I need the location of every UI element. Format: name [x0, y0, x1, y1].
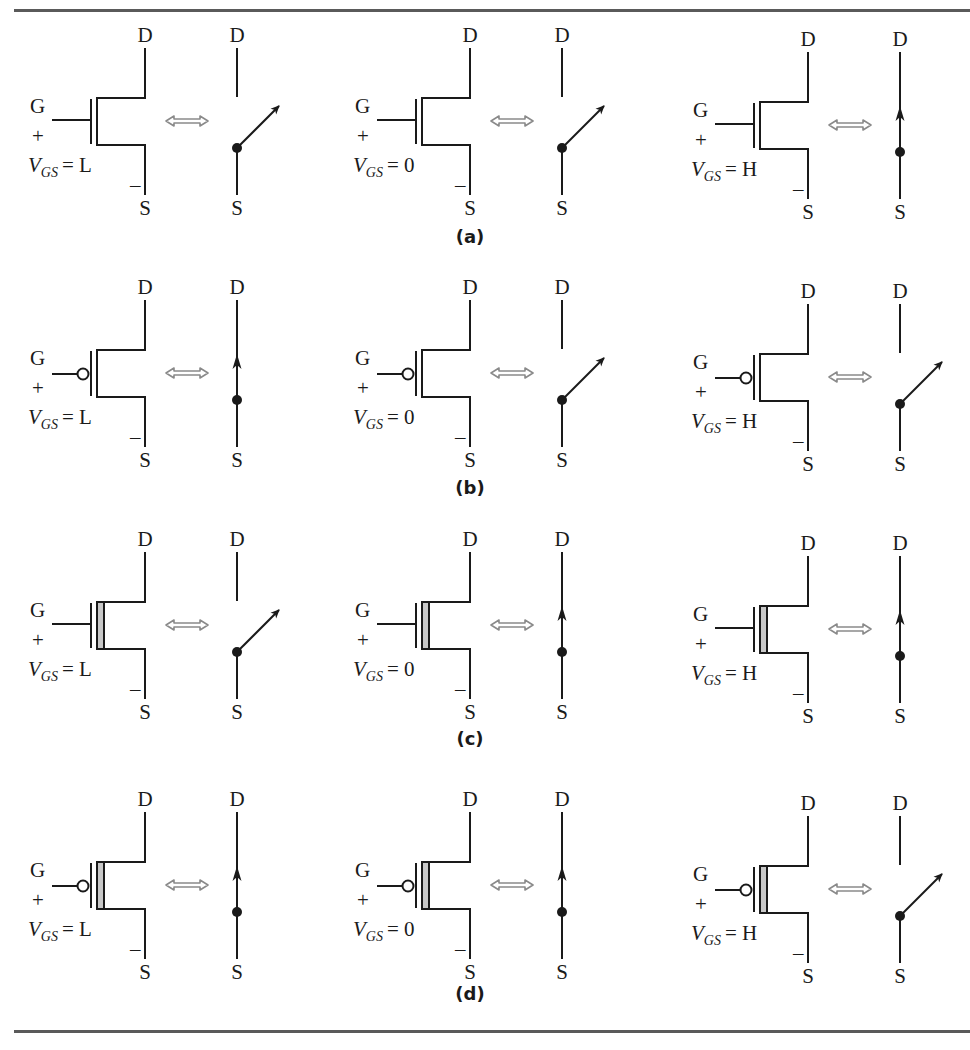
open-switch-icon [557, 48, 604, 195]
vgs-label: VGS= H [691, 409, 757, 436]
mosfet-cell-3-2: DSG+–VGS= HDS [691, 791, 942, 988]
closed-switch-icon [232, 300, 242, 447]
minus-sign: – [129, 425, 141, 449]
plus-sign: + [32, 376, 44, 400]
source-label: S [464, 196, 476, 220]
switch-source-label: S [231, 960, 243, 984]
source-label: S [139, 196, 151, 220]
gate-label: G [355, 858, 370, 882]
source-label: S [139, 448, 151, 472]
switch-drain-label: D [229, 275, 244, 299]
source-label: S [139, 960, 151, 984]
open-switch-icon [232, 48, 279, 195]
source-label: S [802, 200, 814, 224]
plus-sign: + [695, 380, 707, 404]
plus-sign: + [357, 888, 369, 912]
mosfet-switch-figure: DSG+–VGS= LDSDSG+–VGS= 0DSDSG+–VGS= HDS(… [0, 0, 970, 1050]
switch-drain-label: D [892, 27, 907, 51]
switch-drain-label: D [554, 787, 569, 811]
equivalence-arrow-icon [491, 116, 533, 126]
open-switch-icon [232, 552, 279, 699]
drain-label: D [462, 23, 477, 47]
gate-label: G [355, 94, 370, 118]
gate-label: G [355, 346, 370, 370]
vgs-label: VGS= L [28, 405, 92, 432]
vgs-label: VGS= L [28, 917, 92, 944]
gate-label: G [30, 598, 45, 622]
plus-sign: + [32, 124, 44, 148]
source-label: S [464, 960, 476, 984]
plus-sign: + [357, 628, 369, 652]
switch-drain-label: D [229, 527, 244, 551]
row-caption-2: (c) [456, 728, 483, 749]
vgs-label: VGS= L [28, 153, 92, 180]
figure-caption: (c) [456, 728, 483, 749]
open-switch-icon [895, 816, 942, 963]
drain-label: D [462, 527, 477, 551]
switch-source-label: S [894, 200, 906, 224]
minus-sign: – [129, 937, 141, 961]
switch-source-label: S [556, 960, 568, 984]
switch-source-label: S [556, 196, 568, 220]
open-switch-icon [895, 304, 942, 451]
figure-caption: (a) [456, 226, 485, 247]
switch-drain-label: D [892, 791, 907, 815]
minus-sign: – [454, 425, 466, 449]
gate-label: G [693, 602, 708, 626]
figure-caption: (b) [455, 477, 484, 498]
mosfet-cell-1-0: DSG+–VGS= LDS [28, 275, 245, 472]
drain-label: D [137, 23, 152, 47]
switch-source-label: S [556, 448, 568, 472]
switch-source-label: S [231, 196, 243, 220]
drain-label: D [800, 279, 815, 303]
equivalence-arrow-icon [491, 368, 533, 378]
gate-label: G [355, 598, 370, 622]
mosfet-cell-1-2: DSG+–VGS= HDS [691, 279, 942, 476]
minus-sign: – [792, 941, 804, 965]
vgs-label: VGS= 0 [353, 405, 415, 432]
plus-sign: + [32, 888, 44, 912]
closed-switch-icon [232, 812, 242, 959]
equivalence-arrow-icon [166, 880, 208, 890]
switch-source-label: S [231, 700, 243, 724]
plus-sign: + [695, 892, 707, 916]
switch-drain-label: D [554, 275, 569, 299]
equivalence-arrow-icon [829, 624, 871, 634]
drain-label: D [462, 787, 477, 811]
minus-sign: – [454, 937, 466, 961]
minus-sign: – [129, 677, 141, 701]
drain-label: D [800, 531, 815, 555]
mosfet-cell-2-1: DSG+–VGS= 0DS [353, 527, 570, 724]
figure-caption: (d) [455, 983, 484, 1004]
equivalence-arrow-icon [829, 120, 871, 130]
open-switch-icon [557, 300, 604, 447]
row-caption-3: (d) [455, 983, 484, 1004]
gate-label: G [30, 346, 45, 370]
plus-sign: + [32, 628, 44, 652]
plus-sign: + [357, 124, 369, 148]
equivalence-arrow-icon [166, 116, 208, 126]
plus-sign: + [695, 128, 707, 152]
mosfet-cell-0-1: DSG+–VGS= 0DS [353, 23, 604, 220]
equivalence-arrow-icon [491, 620, 533, 630]
drain-label: D [462, 275, 477, 299]
minus-sign: – [129, 173, 141, 197]
source-label: S [464, 448, 476, 472]
row-caption-0: (a) [456, 226, 485, 247]
switch-source-label: S [231, 448, 243, 472]
drain-label: D [137, 275, 152, 299]
closed-switch-icon [895, 52, 905, 199]
plus-sign: + [357, 376, 369, 400]
drain-label: D [137, 787, 152, 811]
switch-drain-label: D [229, 787, 244, 811]
minus-sign: – [454, 173, 466, 197]
gate-label: G [693, 862, 708, 886]
minus-sign: – [792, 429, 804, 453]
closed-switch-icon [895, 556, 905, 703]
minus-sign: – [792, 681, 804, 705]
switch-source-label: S [894, 964, 906, 988]
equivalence-arrow-icon [166, 620, 208, 630]
gate-label: G [693, 98, 708, 122]
vgs-label: VGS= L [28, 657, 92, 684]
vgs-label: VGS= 0 [353, 153, 415, 180]
